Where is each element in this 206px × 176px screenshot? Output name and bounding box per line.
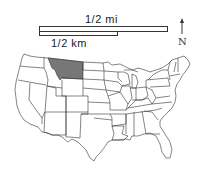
us-map (0, 0, 206, 176)
